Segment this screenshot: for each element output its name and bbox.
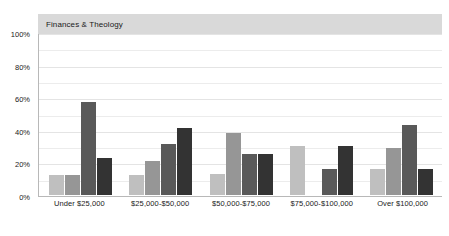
bar <box>290 146 305 195</box>
bar-group <box>362 34 442 195</box>
bar-groups <box>40 34 442 195</box>
bar <box>65 175 80 195</box>
bar <box>129 175 144 195</box>
x-axis-category-label: $25,000-$50,000 <box>120 199 201 208</box>
plot-area <box>38 34 442 197</box>
x-axis-category-label: $75,000-$100,000 <box>281 199 362 208</box>
y-axis-tick-label: 100% <box>11 30 30 39</box>
x-axis-category-label: $50,000-$75,000 <box>201 199 282 208</box>
bar <box>242 154 257 195</box>
y-axis-tick-label: 40% <box>15 127 30 136</box>
bar <box>402 125 417 195</box>
x-axis: Under $25,000$25,000-$50,000$50,000-$75,… <box>39 199 443 208</box>
bar <box>226 133 241 195</box>
bar <box>81 102 96 195</box>
bar-group <box>120 34 200 195</box>
bar <box>210 174 225 195</box>
chart-title: Finances & Theology <box>46 20 123 29</box>
y-axis-tick-label: 60% <box>15 95 30 104</box>
chart-container: Finances & Theology 100%80%60%40%20%0% U… <box>0 0 449 236</box>
x-axis-category-label: Under $25,000 <box>39 199 120 208</box>
bar <box>161 144 176 195</box>
chart-title-band: Finances & Theology <box>38 14 442 34</box>
bar-group <box>281 34 361 195</box>
bar <box>145 161 160 195</box>
bar-group <box>201 34 281 195</box>
bar <box>418 169 433 195</box>
bar <box>49 175 64 195</box>
x-axis-category-label: Over $100,000 <box>362 199 443 208</box>
y-axis-tick-label: 20% <box>15 160 30 169</box>
bar <box>386 148 401 195</box>
y-axis-tick-label: 80% <box>15 62 30 71</box>
bar <box>370 169 385 195</box>
y-axis: 100%80%60%40%20%0% <box>0 34 34 197</box>
bar <box>177 128 192 195</box>
bar-group <box>40 34 120 195</box>
bar <box>97 158 112 195</box>
bar <box>322 169 337 195</box>
bar <box>258 154 273 195</box>
bar <box>338 146 353 195</box>
y-axis-tick-label: 0% <box>19 193 30 202</box>
